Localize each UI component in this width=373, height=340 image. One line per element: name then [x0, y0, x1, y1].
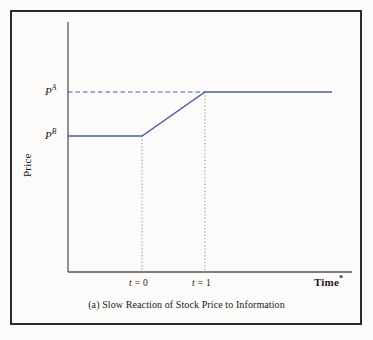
- t1-eq: = 1: [195, 278, 211, 288]
- t0-eq: = 0: [132, 278, 148, 288]
- pa-superscript: A: [52, 83, 57, 92]
- x-tick-label-t1: t = 1: [192, 279, 211, 289]
- figure-caption: (a) Slow Reaction of Stock Price to Info…: [0, 299, 373, 310]
- y-tick-label-pa: PA: [45, 86, 56, 97]
- chart-svg: [0, 0, 373, 340]
- time-asterisk: *: [339, 274, 343, 283]
- plot-area: Price PA PB t = 0 t = 1 Time* (a) Slow R…: [0, 0, 373, 340]
- stock-price-line: [68, 92, 332, 136]
- pb-base: P: [45, 129, 52, 141]
- time-text: Time: [314, 276, 339, 288]
- x-tick-label-t0: t = 0: [129, 279, 148, 289]
- pb-superscript: B: [52, 127, 57, 136]
- figure-page: Price PA PB t = 0 t = 1 Time* (a) Slow R…: [0, 0, 373, 340]
- y-tick-label-pb: PB: [45, 130, 56, 141]
- pa-base: P: [45, 85, 52, 97]
- y-axis-label: Price: [22, 153, 33, 177]
- x-axis-label: Time*: [314, 277, 343, 288]
